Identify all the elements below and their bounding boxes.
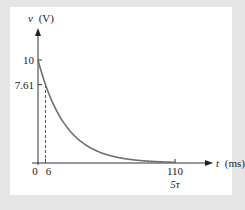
chart-svg: v (V) t (ms) 107.61061105τ [0,0,245,210]
x-tick-label: 0 [32,165,38,177]
y-tick-label: 10 [23,54,35,66]
series-line-v [38,60,175,162]
y-axis-unit: (V) [39,12,55,25]
x-axis-label: t (ms) [216,157,245,170]
y-axis-var: v [28,12,33,24]
x-tick-label: 6 [46,165,52,177]
y-axis-label: v (V) [28,12,54,25]
y-tick-label: 7.61 [15,79,34,91]
x-axis-arrow-icon [205,160,213,166]
y-axis-arrow-icon [35,28,41,36]
axes [32,28,213,166]
x-tick-sublabel: 5τ [170,178,181,190]
x-tick-label: 110 [167,165,184,177]
x-axis-unit: (ms) [225,157,245,170]
x-axis-var: t [216,157,220,169]
ticks: 107.61061105τ [15,54,184,190]
